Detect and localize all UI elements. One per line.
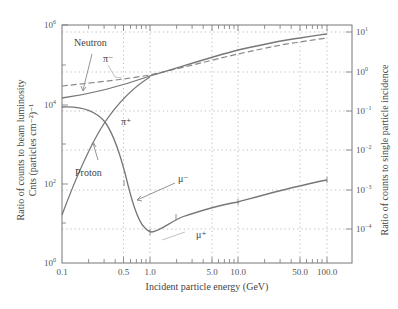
svg-text:10−2: 10−2 [356, 144, 371, 155]
svg-text:10−3: 10−3 [356, 184, 371, 195]
svg-text:10−1: 10−1 [356, 105, 371, 116]
svg-text:10−4: 10−4 [356, 223, 371, 234]
svg-text:100.0: 100.0 [317, 267, 338, 277]
y-axis-right-labels: 101 100 10−1 10−2 10−3 10−4 [356, 26, 371, 234]
y-axis-right-title: Ratio of counts to single particle incid… [379, 64, 390, 236]
proton-label: Proton [75, 167, 102, 178]
mu-minus-arrow [137, 183, 175, 200]
svg-text:1.0: 1.0 [144, 267, 156, 277]
svg-text:100: 100 [356, 66, 368, 77]
svg-text:102: 102 [44, 178, 56, 189]
svg-text:104: 104 [44, 99, 56, 110]
pi-minus-label: π⁻ [103, 53, 113, 64]
y-axis-left-title-line1: Ratio of counts to beam luminosity [15, 80, 26, 221]
svg-text:0.5: 0.5 [118, 267, 130, 277]
mu-plus-label: μ⁺ [196, 229, 207, 240]
mu-minus-label: μ⁻ [178, 173, 189, 184]
x-axis-labels: 0.1 0.5 1.0 5.0 10.0 50.0 100.0 [56, 267, 337, 277]
y-axis-left-title-line2: Cnts (particles cm⁻²)⁻¹ [27, 104, 39, 197]
svg-text:0.1: 0.1 [56, 267, 67, 277]
muon-curve [152, 180, 327, 232]
svg-text:106: 106 [44, 19, 56, 30]
y-axis-left-ticks [62, 25, 68, 223]
pi-minus-arrow [108, 65, 122, 78]
y-axis-left-labels: 106 104 102 100 [44, 19, 56, 268]
pi-plus-curve [62, 77, 150, 215]
svg-text:10.0: 10.0 [230, 267, 246, 277]
muon-curve-markers [124, 177, 327, 235]
svg-text:100: 100 [44, 257, 56, 268]
pi-plus-label: π⁺ [121, 116, 131, 127]
y-axis-right-ticks [346, 32, 352, 229]
grid-vertical [124, 25, 328, 263]
chart: Neutron π⁻ π⁺ Proton μ⁻ μ⁺ 106 104 102 1… [0, 0, 398, 309]
x-axis-title: Incident particle energy (GeV) [146, 281, 269, 293]
svg-text:101: 101 [356, 26, 368, 37]
mu-plus-arrow [162, 232, 185, 240]
svg-text:50.0: 50.0 [292, 267, 308, 277]
neutron-label: Neutron [74, 37, 107, 48]
neutron-arrow [83, 54, 92, 90]
svg-text:5.0: 5.0 [206, 267, 218, 277]
